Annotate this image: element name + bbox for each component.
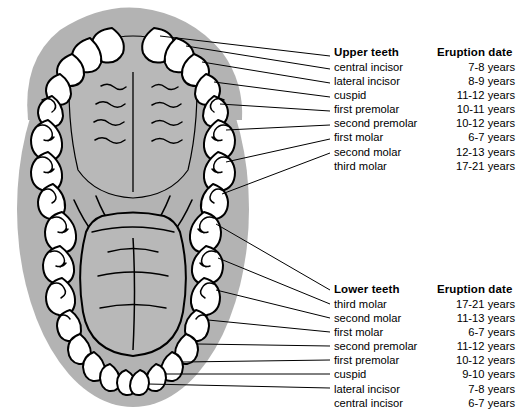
lower-row-date-7: 6-7 years: [437, 396, 515, 410]
lower-row-date-0: 17-21 years: [437, 297, 515, 311]
lower-row-date-4: 10-12 years: [437, 353, 515, 367]
upper-row-date-6: 12-13 years: [437, 145, 515, 159]
lower-date-header: Eruption date: [437, 281, 515, 297]
figure-canvas: Upper teeth central incisor lateral inci…: [0, 0, 532, 415]
lower-teeth-header: Lower teeth: [334, 281, 417, 297]
upper-tooth-column: Upper teeth central incisor lateral inci…: [334, 44, 417, 173]
upper-row-date-7: 17-21 years: [437, 159, 515, 173]
upper-row-date-2: 11-12 years: [437, 88, 515, 102]
lower-row-date-5: 9-10 years: [437, 367, 515, 381]
upper-teeth-header: Upper teeth: [334, 44, 417, 60]
upper-row-date-3: 10-11 years: [437, 102, 515, 116]
upper-row-label-0: central incisor: [334, 60, 417, 74]
upper-date-column: Eruption date 7-8 years 8-9 years 11-12 …: [437, 44, 515, 173]
upper-row-date-1: 8-9 years: [437, 74, 515, 88]
lower-row-label-2: first molar: [334, 325, 417, 339]
upper-row-date-5: 6-7 years: [437, 130, 515, 144]
lower-row-date-2: 6-7 years: [437, 325, 515, 339]
lower-row-label-6: lateral incisor: [334, 382, 417, 396]
lower-row-label-1: second molar: [334, 311, 417, 325]
lower-tooth-column: Lower teeth third molar second molar fir…: [334, 281, 417, 410]
lower-row-label-5: cuspid: [334, 367, 417, 381]
upper-row-label-5: first molar: [334, 130, 417, 144]
lower-date-column: Eruption date 17-21 years 11-13 years 6-…: [437, 281, 515, 410]
upper-row-date-0: 7-8 years: [437, 60, 515, 74]
upper-row-label-7: third molar: [334, 159, 417, 173]
upper-row-label-2: cuspid: [334, 88, 417, 102]
lower-row-label-7: central incisor: [334, 396, 417, 410]
lower-row-date-1: 11-13 years: [437, 311, 515, 325]
lower-row-label-3: second premolar: [334, 339, 417, 353]
upper-date-header: Eruption date: [437, 44, 515, 60]
upper-row-label-6: second molar: [334, 145, 417, 159]
upper-row-date-4: 10-12 years: [437, 116, 515, 130]
lower-row-date-3: 11-12 years: [437, 339, 515, 353]
upper-row-label-3: first premolar: [334, 102, 417, 116]
upper-row-label-1: lateral incisor: [334, 74, 417, 88]
lower-row-label-4: first premolar: [334, 353, 417, 367]
upper-row-label-4: second premolar: [334, 116, 417, 130]
lower-row-label-0: third molar: [334, 297, 417, 311]
lower-row-date-6: 7-8 years: [437, 382, 515, 396]
